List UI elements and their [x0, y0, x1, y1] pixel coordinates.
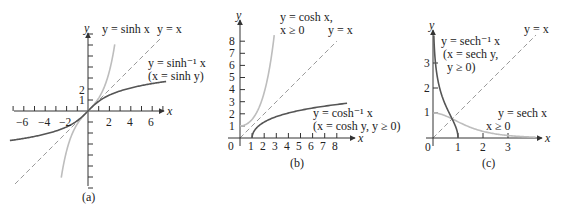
identity-label: y = x — [328, 23, 353, 37]
figure-hyperbolic-inverses: −6 −4 −2 2 4 6 1 2 x y y = sinh x y = x … — [0, 0, 563, 211]
x-tick-label: 5 — [296, 140, 302, 152]
y-tick-label: 1 — [229, 120, 235, 132]
y-tick-label: 2 — [424, 82, 430, 94]
x-tick-label: −4 — [38, 116, 50, 128]
asech-sublabel: (x = sech y, — [443, 47, 498, 61]
y-tick-label: 1 — [424, 106, 430, 118]
x-axis-label: x — [357, 131, 364, 145]
y-tick-label: 2 — [229, 108, 235, 120]
identity-label: y = x — [524, 22, 549, 36]
y-tick-label: 2 — [79, 84, 85, 96]
x-tick-label: 4 — [127, 116, 133, 128]
y-axis-label: y — [83, 21, 90, 35]
x-tick-label: 3 — [505, 141, 511, 153]
x-tick-label: 0 — [228, 140, 234, 152]
sinh-label: y = sinh x — [102, 22, 150, 36]
x-tick-label: 1 — [455, 141, 461, 153]
x-tick-label: 6 — [308, 140, 314, 152]
x-tick-label: 2 — [480, 141, 486, 153]
x-tick-label: 7 — [320, 140, 326, 152]
x-tick-label: 8 — [332, 140, 338, 152]
acosh-sublabel: (x = cosh y, y ≥ 0) — [313, 119, 401, 133]
x-tick-label: 0 — [425, 141, 431, 153]
y-tick-label: 5 — [229, 71, 235, 83]
asech-sublabel-2: y ≥ 0) — [447, 60, 476, 74]
cosh-sublabel: x ≥ 0 — [280, 23, 305, 37]
asinh-sublabel: (x = sinh y) — [148, 69, 204, 83]
caption-a: (a) — [82, 190, 95, 204]
x-tick-label: 3 — [272, 140, 278, 152]
y-axis-label: y — [235, 8, 242, 22]
x-tick-label: −6 — [16, 116, 28, 128]
caption-b: (b) — [290, 156, 304, 170]
y-tick-label: 8 — [229, 35, 235, 47]
sech-sublabel: x ≥ 0 — [486, 119, 511, 133]
asinh-label: y = sinh⁻¹ x — [148, 56, 206, 70]
panel-c: 0 1 2 3 1 2 3 x y y = sech⁻¹ x (x = sech… — [424, 18, 551, 170]
x-tick-label: −2 — [59, 116, 71, 128]
asech-label: y = sech⁻¹ x — [441, 34, 500, 48]
x-axis-label: x — [544, 131, 551, 145]
x-tick-label: 1 — [248, 140, 254, 152]
x-tick-label: 2 — [106, 116, 112, 128]
x-tick-label: 4 — [284, 140, 290, 152]
x-axis-label: x — [166, 104, 173, 118]
identity-label: y = x — [157, 22, 182, 36]
y-axis-label: y — [428, 18, 435, 32]
sech-label: y = sech x — [498, 106, 547, 120]
panel-a: −6 −4 −2 2 4 6 1 2 x y y = sinh x y = x … — [10, 21, 206, 204]
x-tick-label: 6 — [148, 116, 154, 128]
y-tick-label: 4 — [229, 83, 235, 95]
panel-b: 0 1 2 3 4 5 6 7 8 1 2 3 4 5 6 7 8 x y y … — [228, 8, 401, 170]
cosh-curve — [240, 35, 274, 126]
y-tick-label: 3 — [424, 57, 430, 69]
y-tick-label: 7 — [229, 47, 235, 59]
y-tick-label: 6 — [229, 59, 235, 71]
x-tick-label: 2 — [260, 140, 266, 152]
acosh-label: y = cosh⁻¹ x — [313, 106, 373, 120]
caption-c: (c) — [482, 156, 495, 170]
cosh-label: y = cosh x, — [280, 10, 333, 24]
y-tick-label: 3 — [229, 96, 235, 108]
